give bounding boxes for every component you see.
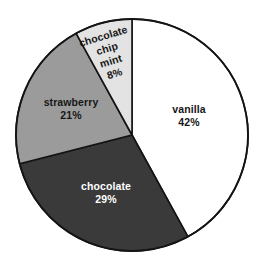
pie-label-vanilla-name: vanilla xyxy=(172,103,205,115)
pie-label-strawberry-value: 21% xyxy=(60,109,82,121)
pie-chart-canvas: vanilla 42% chocolate 29% strawberry 21%… xyxy=(0,0,265,270)
pie-label-chocolate-value: 29% xyxy=(95,193,117,205)
pie-chart-figure: vanilla 42% chocolate 29% strawberry 21%… xyxy=(0,0,265,270)
pie-label-chocolate-name: chocolate xyxy=(81,180,131,192)
pie-label-strawberry-name: strawberry xyxy=(44,96,99,108)
pie-label-vanilla-value: 42% xyxy=(178,116,200,128)
